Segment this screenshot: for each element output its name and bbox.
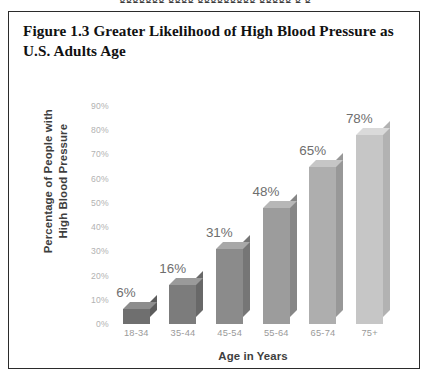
bar-side-face bbox=[383, 121, 390, 317]
bar-front-face bbox=[263, 208, 290, 324]
bar-column[interactable]: 16% bbox=[160, 106, 207, 324]
x-tick-label: 65-74 bbox=[300, 328, 346, 338]
bar-18-34[interactable] bbox=[123, 309, 150, 324]
x-tick-label: 75+ bbox=[347, 328, 393, 338]
y-tick-label: 90% bbox=[91, 101, 109, 111]
bar-35-44[interactable] bbox=[169, 285, 196, 324]
bar-front-face bbox=[169, 285, 196, 324]
y-tick-label: 50% bbox=[91, 198, 109, 208]
plot-area: 6%16%31%48%65%78% bbox=[113, 106, 393, 324]
bar-value-label: 78% bbox=[336, 111, 382, 126]
bar-column[interactable]: 65% bbox=[300, 106, 347, 324]
y-axis-title-line-1: Percentage of People with bbox=[41, 76, 56, 286]
bar-55-64[interactable] bbox=[263, 208, 290, 324]
bar-65-74[interactable] bbox=[309, 167, 336, 324]
x-tick-label: 18-34 bbox=[113, 328, 159, 338]
bar-value-label: 31% bbox=[196, 225, 242, 240]
y-tick-label: 80% bbox=[91, 125, 109, 135]
bar-front-face bbox=[123, 309, 150, 324]
bar-value-label: 48% bbox=[243, 184, 289, 199]
bar-front-face bbox=[309, 167, 336, 324]
page-bleed-text: ggggggg gggg ggggggggg ggggg g g bbox=[0, 0, 430, 3]
y-axis-title: Percentage of People with High Blood Pre… bbox=[41, 76, 71, 286]
x-tick-label: 45-54 bbox=[207, 328, 253, 338]
bar-front-face bbox=[356, 135, 383, 324]
bar-75+[interactable] bbox=[356, 135, 383, 324]
y-tick-label: 30% bbox=[91, 246, 109, 256]
figure-caption: Figure 1.3 Greater Likelihood of High Bl… bbox=[23, 21, 405, 60]
bar-value-label: 16% bbox=[150, 261, 196, 276]
x-tick-label: 55-64 bbox=[253, 328, 299, 338]
bar-value-label: 65% bbox=[290, 143, 336, 158]
bar-column[interactable]: 78% bbox=[346, 106, 393, 324]
y-tick-label: 0% bbox=[96, 319, 109, 329]
bar-front-face bbox=[216, 249, 243, 324]
bar-side-face bbox=[336, 153, 343, 317]
y-tick-label: 70% bbox=[91, 149, 109, 159]
x-tick-label: 35-44 bbox=[160, 328, 206, 338]
y-tick-label: 20% bbox=[91, 271, 109, 281]
x-axis-title: Age in Years bbox=[113, 350, 393, 362]
bar-45-54[interactable] bbox=[216, 249, 243, 324]
x-axis-tick-labels: 18-3435-4445-5455-6465-7475+ bbox=[113, 328, 393, 344]
y-axis-title-line-2: High Blood Pressure bbox=[56, 76, 71, 286]
y-tick-label: 40% bbox=[91, 222, 109, 232]
y-tick-label: 60% bbox=[91, 174, 109, 184]
bar-column[interactable]: 6% bbox=[113, 106, 160, 324]
bar-column[interactable]: 31% bbox=[206, 106, 253, 324]
figure-frame: Figure 1.3 Greater Likelihood of High Bl… bbox=[8, 11, 420, 369]
bar-side-face bbox=[290, 194, 297, 317]
bar-column[interactable]: 48% bbox=[253, 106, 300, 324]
bar-chart: Percentage of People with High Blood Pre… bbox=[9, 70, 419, 368]
bar-value-label: 6% bbox=[103, 285, 149, 300]
